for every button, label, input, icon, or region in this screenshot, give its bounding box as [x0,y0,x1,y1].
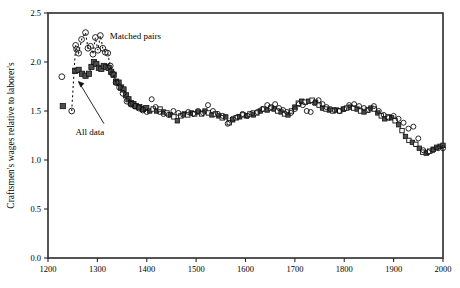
y-tick-label: 2.0 [30,57,41,67]
all-data-point [400,128,404,132]
x-tick-label: 1300 [89,264,106,274]
y-tick-label: 1.0 [30,155,41,165]
wages-ratio-chart: Craftsmen's wages relative to laborer's … [0,0,460,288]
x-tick-label: 1900 [385,264,402,274]
x-tick-label: 1700 [286,264,303,274]
all-data-point [175,119,179,123]
chart-background [0,0,460,288]
all-data-point [60,104,65,109]
chart-figure: Craftsmen's wages relative to laborer's … [0,0,460,288]
y-tick-label: 1.5 [30,106,41,116]
x-tick-label: 1200 [40,264,57,274]
matched-pairs-label: Matched pairs [110,31,162,41]
y-tick-label: 0.5 [30,204,41,214]
x-tick-label: 1400 [138,264,155,274]
all-data-label: All data [76,127,105,137]
y-tick-label: 0.0 [30,253,41,263]
y-axis-title-text: Craftsmen's wages relative to laborer's [6,62,16,209]
y-axis-title: Craftsmen's wages relative to laborer's [6,62,16,209]
x-tick-label: 1800 [336,264,353,274]
x-tick-label: 1500 [188,264,205,274]
all-data-point [86,71,91,76]
all-data-point [89,64,94,69]
y-tick-label: 2.5 [30,8,41,18]
all-data-point [396,123,400,127]
x-tick-label: 2000 [435,264,452,274]
x-tick-label: 1600 [237,264,254,274]
